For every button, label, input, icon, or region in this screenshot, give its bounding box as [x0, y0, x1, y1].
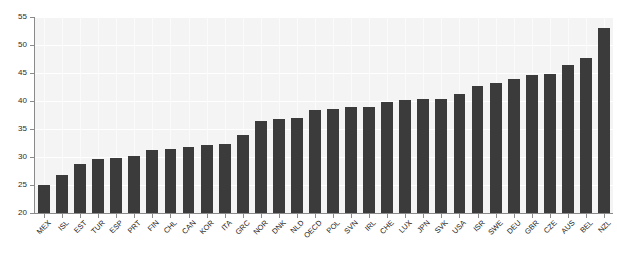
bar-fin[interactable]	[146, 150, 158, 213]
y-axis-tick	[30, 45, 35, 46]
bar-oecd[interactable]	[309, 110, 321, 213]
x-axis-tick-label-usa: USA	[452, 219, 469, 236]
x-axis-tick-label-ita: ITA	[220, 219, 234, 233]
y-axis-tick-label: 50	[0, 41, 27, 49]
x-axis-tick	[333, 214, 334, 218]
bar-svk[interactable]	[435, 99, 447, 213]
x-axis-tick	[478, 214, 479, 218]
x-axis-tick-label-svk: SVK	[434, 219, 450, 235]
bar-est[interactable]	[74, 164, 86, 213]
bar-bel[interactable]	[580, 58, 592, 213]
x-axis-tick-label-svn: SVN	[343, 219, 360, 236]
x-axis-tick-label-prt: PRT	[127, 219, 143, 235]
x-axis-tick	[297, 214, 298, 218]
y-axis-tick	[30, 213, 35, 214]
y-axis-tick	[30, 73, 35, 74]
x-axis-tick-label-nor: NOR	[252, 219, 269, 236]
bar-swe[interactable]	[490, 83, 502, 213]
x-axis-tick-label-oecd: OECD	[303, 219, 324, 240]
x-axis-tick	[189, 214, 190, 218]
x-axis-tick-label-est: EST	[73, 219, 89, 235]
bar-nld[interactable]	[291, 118, 303, 213]
y-axis-tick-label: 25	[0, 181, 27, 189]
x-axis-line	[34, 213, 613, 214]
bar-jpn[interactable]	[417, 99, 429, 213]
x-axis-tick-label-nzl: NZL	[597, 219, 613, 235]
gridline	[35, 73, 613, 74]
bar-svn[interactable]	[345, 107, 357, 213]
x-axis-tick	[568, 214, 569, 218]
x-axis-tick-label-can: CAN	[180, 219, 197, 236]
gridline	[35, 45, 613, 46]
bar-lux[interactable]	[399, 100, 411, 213]
y-axis-tick-label: 40	[0, 97, 27, 105]
x-axis-tick-label-cze: CZE	[542, 219, 558, 235]
x-axis-tick-label-lux: LUX	[398, 219, 414, 235]
bar-gbr[interactable]	[526, 75, 538, 213]
bar-chl[interactable]	[165, 149, 177, 213]
bar-nor[interactable]	[255, 121, 267, 213]
x-axis-tick	[604, 214, 605, 218]
x-axis-tick	[116, 214, 117, 218]
bar-prt[interactable]	[128, 156, 140, 213]
bar-can[interactable]	[183, 147, 195, 213]
y-axis-tick	[30, 157, 35, 158]
bar-chart: 2025303540455055 MEXISLESTTURESPPRTFINCH…	[0, 0, 617, 256]
x-axis-tick-label-esp: ESP	[109, 219, 125, 235]
bar-grc[interactable]	[237, 135, 249, 213]
x-axis-tick-label-chl: CHL	[163, 219, 179, 235]
x-axis-tick	[423, 214, 424, 218]
x-axis-tick	[532, 214, 533, 218]
x-axis-tick	[44, 214, 45, 218]
y-axis-tick-label: 30	[0, 153, 27, 161]
x-axis-tick-label-deu: DEU	[505, 219, 522, 236]
x-axis-tick-label-irl: IRL	[364, 219, 378, 233]
x-axis-tick-label-tur: TUR	[90, 219, 107, 236]
x-axis-tick-label-kor: KOR	[198, 219, 215, 236]
x-axis-tick-label-che: CHE	[379, 219, 396, 236]
bar-tur[interactable]	[92, 159, 104, 213]
x-axis-tick-label-pol: POL	[325, 219, 341, 235]
x-axis-tick	[351, 214, 352, 218]
bar-deu[interactable]	[508, 79, 520, 213]
x-axis-tick-label-fin: FIN	[147, 219, 161, 233]
y-axis-tick	[30, 17, 35, 18]
x-axis-tick	[207, 214, 208, 218]
x-axis-tick	[261, 214, 262, 218]
bar-aus[interactable]	[562, 65, 574, 213]
bar-esp[interactable]	[110, 158, 122, 213]
x-axis-tick-label-aus: AUS	[560, 219, 577, 236]
bar-irl[interactable]	[363, 107, 375, 213]
bar-nzl[interactable]	[598, 28, 610, 213]
x-axis-tick	[586, 214, 587, 218]
x-axis-tick-label-gbr: GBR	[523, 219, 540, 236]
bar-cze[interactable]	[544, 74, 556, 213]
x-axis-tick	[243, 214, 244, 218]
bar-kor[interactable]	[201, 145, 213, 213]
y-axis-tick-labels: 2025303540455055	[0, 0, 29, 256]
bar-mex[interactable]	[38, 185, 50, 213]
x-axis-tick	[80, 214, 81, 218]
x-axis-tick-label-jpn: JPN	[416, 219, 432, 235]
x-axis-tick	[315, 214, 316, 218]
x-axis-tick-label-mex: MEX	[36, 219, 53, 236]
y-axis-tick-label: 35	[0, 125, 27, 133]
y-axis-tick-label: 45	[0, 69, 27, 77]
x-axis-tick-label-dnk: DNK	[271, 219, 288, 236]
x-axis-tick	[550, 214, 551, 218]
bar-che[interactable]	[381, 102, 393, 213]
x-axis-tick-label-isr: ISR	[472, 219, 487, 234]
bar-isr[interactable]	[472, 86, 484, 213]
bar-pol[interactable]	[327, 109, 339, 213]
x-axis-tick	[405, 214, 406, 218]
x-axis-tick-label-grc: GRC	[234, 219, 251, 236]
vertical-gridline	[44, 17, 45, 213]
bar-usa[interactable]	[454, 94, 466, 213]
x-axis-tick	[496, 214, 497, 218]
x-axis-tick-label-bel: BEL	[579, 219, 595, 235]
bar-ita[interactable]	[219, 144, 231, 213]
bar-dnk[interactable]	[273, 119, 285, 213]
x-axis-tick	[225, 214, 226, 218]
bar-isl[interactable]	[56, 175, 68, 213]
y-axis-tick-label: 55	[0, 13, 27, 21]
